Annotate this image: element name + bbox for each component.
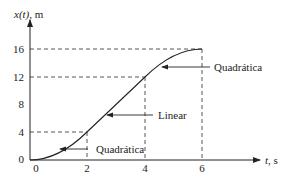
y-tick-12: 12 — [13, 71, 24, 83]
x-tick-2: 2 — [84, 162, 90, 174]
x-tick-6: 6 — [199, 162, 205, 174]
y-tick-4: 4 — [19, 126, 25, 138]
x-tick-4: 4 — [142, 162, 148, 174]
annotation-linear: Linear — [158, 109, 187, 121]
y-tick-0: 0 — [19, 153, 25, 165]
annotation-quadratica-low: Quadrática — [96, 143, 144, 155]
y-axis-var: x(t) — [13, 8, 30, 21]
y-axis-label: x(t), m — [13, 8, 44, 21]
x-axis-unit: , s — [268, 154, 278, 166]
y-axis-unit: , m — [29, 8, 44, 20]
x-tick-0: 0 — [33, 162, 39, 174]
y-tick-16: 16 — [13, 43, 25, 55]
chart: Quadrática Linear Quadrática 0 4 8 12 16… — [0, 0, 295, 182]
y-tick-8: 8 — [19, 98, 25, 110]
x-axis-label: t, s — [265, 154, 278, 166]
annotation-quadratica-high: Quadrática — [214, 61, 262, 73]
